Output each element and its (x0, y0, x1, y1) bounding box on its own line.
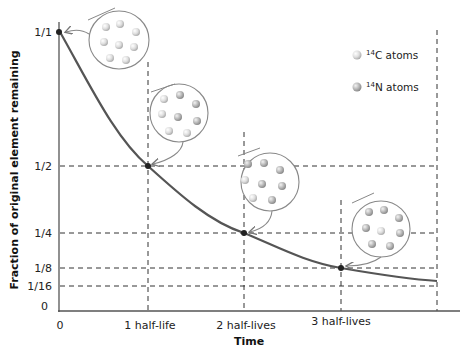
svg-text:0: 0 (41, 300, 48, 313)
point-0-halflives (56, 29, 62, 35)
svg-text:1/16: 1/16 (27, 280, 52, 293)
svg-text:1/2: 1/2 (34, 160, 52, 173)
atom-sample-3-halflives (347, 193, 410, 266)
point-1-halflife (145, 163, 151, 169)
y-axis-title: Fraction of original element remaining (8, 50, 21, 289)
atom-sample-1-halflife (150, 84, 208, 164)
point-2-halflives (241, 230, 247, 236)
atom-sample-2-halflives (238, 148, 299, 232)
svg-text:1/4: 1/4 (34, 227, 52, 240)
svg-text:3 half-lives: 3 half-lives (311, 315, 371, 328)
svg-text:14C atoms: 14C atoms (366, 49, 418, 61)
svg-text:1/1: 1/1 (34, 26, 52, 39)
svg-text:1 half-life: 1 half-life (124, 319, 175, 332)
legend-n-atom-icon (353, 83, 362, 92)
point-3-halflives (338, 265, 344, 271)
y-tick-labels: 1/1 1/2 1/4 1/8 1/16 0 (27, 26, 52, 313)
svg-text:1/8: 1/8 (34, 262, 52, 275)
svg-text:0: 0 (57, 319, 64, 332)
x-tick-labels: 0 1 half-life 2 half-lives 3 half-lives (57, 315, 372, 332)
svg-text:2 half-lives: 2 half-lives (216, 319, 276, 332)
data-points (56, 29, 344, 271)
legend-c-atom-icon (353, 51, 362, 60)
x-axis-title: Time (234, 335, 264, 348)
legend: 14C atoms 14N atoms (353, 49, 419, 93)
atom-sample-0-halflives (66, 8, 149, 69)
svg-text:14N atoms: 14N atoms (366, 81, 419, 93)
decay-chart: 1/1 1/2 1/4 1/8 1/16 0 0 1 half-life 2 h… (0, 0, 462, 349)
